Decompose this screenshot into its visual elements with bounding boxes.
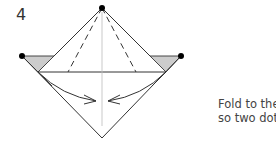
caption-line-1: Fold to the center [218,97,276,111]
top-left-edge [54,8,102,56]
valley-fold-line-icon [68,8,102,72]
instruction-caption: Fold to the center so two dots meet. [218,97,276,125]
dot-marker-icon [178,53,184,59]
top-right-edge [102,8,150,56]
dot-marker-icon [19,53,25,59]
right-shaded-flap [150,56,181,72]
left-shaded-flap [22,56,54,72]
caption-line-2: so two dots meet. [218,111,276,125]
right-outer-edge [102,56,181,138]
valley-fold-line-icon [102,8,136,72]
left-outer-edge [22,56,102,138]
dot-marker-icon [99,5,105,11]
